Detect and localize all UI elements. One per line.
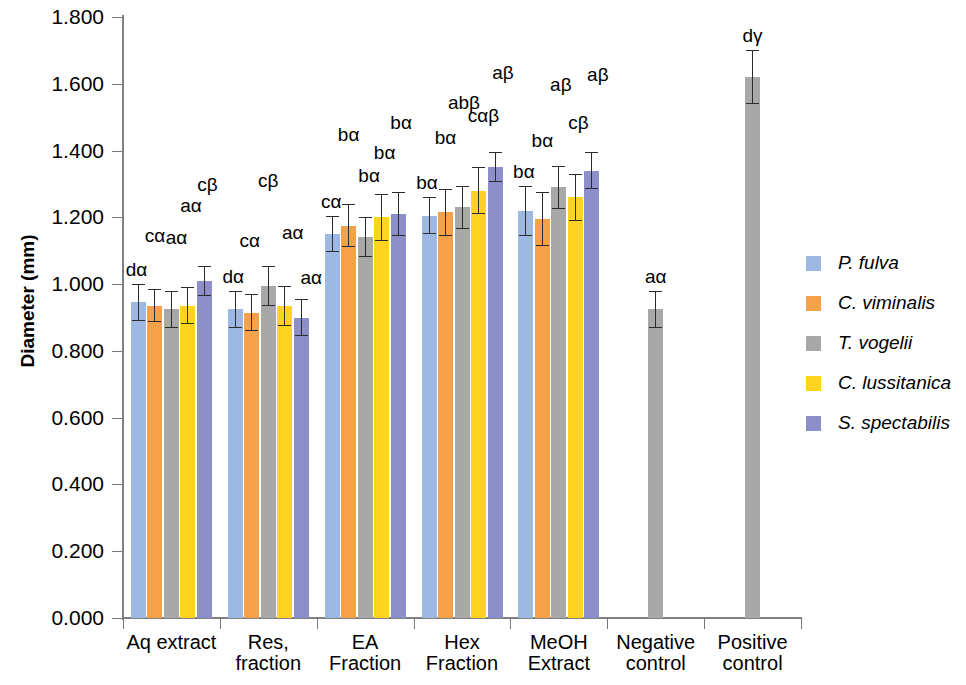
error-bar-cap-bottom [536,245,549,246]
error-bar-stem [445,189,446,236]
error-bar [569,174,582,221]
error-bar-stem [187,287,188,324]
error-bar-cap-bottom [569,220,582,221]
bar [374,217,389,618]
bar-fill [197,281,212,618]
error-bar-cap-top [326,216,339,217]
legend-swatch [806,256,821,271]
error-bar-stem [204,266,205,296]
bar-fill [341,226,356,618]
x-tick-mark [510,618,511,629]
y-tick-mark [112,618,123,619]
error-bar-cap-bottom [229,327,242,328]
bar-fill [568,197,583,618]
error-bar-cap-bottom [148,321,161,322]
error-bar-stem [462,186,463,229]
bar [180,306,195,618]
error-bar-cap-top [392,192,405,193]
x-tick-mark [801,618,802,629]
y-tick-label: 0.400 [0,473,104,494]
error-bar-stem [591,152,592,189]
legend-item[interactable]: C. viminalis [806,283,951,323]
bar-fill [228,309,243,618]
error-bar-stem [284,286,285,326]
bar-fill [518,211,533,618]
y-tick-label: 0.000 [0,607,104,628]
bar [131,302,146,618]
bar-fill [244,313,259,619]
bar-fill [180,306,195,618]
error-bar-cap-bottom [278,325,291,326]
error-bar [181,287,194,324]
bar-fill [131,302,146,618]
error-bar-cap-bottom [456,228,469,229]
error-bar-cap-bottom [423,233,436,234]
bar [164,309,179,618]
x-tick-mark [220,618,221,629]
error-bar-cap-bottom [439,235,452,236]
bar [341,226,356,618]
error-bar [439,189,452,236]
error-bar-cap-top [489,152,502,153]
significance-label: dα [212,267,255,286]
error-bar [326,216,339,253]
legend-item[interactable]: P. fulva [806,243,951,283]
bar [422,216,437,618]
y-tick-label: 0.600 [0,407,104,428]
legend-item[interactable]: S. spectabilis [806,403,951,443]
error-bar [375,194,388,241]
error-bar-stem [154,289,155,322]
bar [391,214,406,618]
x-tick-mark [607,618,608,629]
y-tick-label: 0.200 [0,540,104,561]
error-bar-cap-bottom [181,323,194,324]
error-bar [295,299,308,336]
error-bar-cap-top [569,174,582,175]
legend-item[interactable]: T. vogelii [806,323,951,363]
error-bar-cap-bottom [585,188,598,189]
significance-label: aβ [576,65,619,84]
x-group-label: Positive control [692,632,813,674]
error-bar-cap-top [262,266,275,267]
error-bar-cap-top [148,289,161,290]
bar [488,167,503,618]
error-bar-cap-bottom [649,327,662,328]
error-bar-cap-top [132,284,145,285]
y-tick-mark [112,484,123,485]
y-tick-mark [112,84,123,85]
significance-label: cα [228,231,271,250]
y-tick-label: 1.600 [0,73,104,94]
error-bar-stem [381,194,382,241]
error-bar [552,166,565,209]
bar-fill [374,217,389,618]
error-bar-stem [525,186,526,236]
error-bar [229,291,242,328]
error-bar-cap-top [295,299,308,300]
bar-fill [535,219,550,618]
bar-fill [471,191,486,618]
error-bar [519,186,532,236]
error-bar-cap-top [198,266,211,267]
bar [584,171,599,618]
error-bar [536,192,549,245]
legend-label: T. vogelii [838,332,912,354]
error-bar-stem [752,50,753,103]
y-tick-label: 1.200 [0,206,104,227]
significance-label: aα [155,228,198,247]
bar [551,187,566,618]
bar [518,211,533,618]
x-tick-mark [414,618,415,629]
error-bar-stem [542,192,543,245]
error-bar-cap-top [165,291,178,292]
error-bar-stem [655,291,656,328]
legend-label: S. spectabilis [838,412,950,434]
error-bar [489,152,502,182]
y-tick-label: 1.000 [0,273,104,294]
error-bar-cap-bottom [552,208,565,209]
legend-item[interactable]: C. lussitanica [806,363,951,403]
bar-fill [438,212,453,618]
legend-swatch [806,336,821,351]
error-bar-cap-top [472,167,485,168]
error-bar-stem [575,174,576,221]
error-bar-cap-top [746,50,759,51]
